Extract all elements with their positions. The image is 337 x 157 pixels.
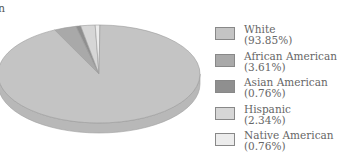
pie-chart-graphic (0, 0, 205, 156)
legend-value: (3.61%) (244, 61, 286, 73)
pie-slice-white (0, 25, 200, 123)
legend-value: (2.34%) (244, 114, 286, 126)
legend-swatch-asian-american (215, 80, 235, 93)
legend-value: (93.85%) (244, 34, 292, 46)
legend-swatch-white (215, 27, 235, 40)
legend-item-asian-american: Asian American (0.76%) (215, 77, 336, 104)
chart-legend: White (93.85%) African American (3.61%) … (215, 24, 336, 157)
legend-value: (0.76%) (244, 140, 286, 152)
legend-swatch-hispanic (215, 107, 235, 120)
legend-item-african-american: African American (3.61%) (215, 51, 336, 78)
legend-swatch-native-american (215, 133, 235, 146)
legend-swatch-african-american (215, 54, 235, 67)
legend-value: (0.76%) (244, 87, 286, 99)
legend-item-native-american: Native American (0.76%) (215, 130, 336, 157)
legend-item-white: White (93.85%) (215, 24, 336, 51)
legend-item-hispanic: Hispanic (2.34%) (215, 104, 336, 131)
pie-chart (0, 0, 205, 156)
